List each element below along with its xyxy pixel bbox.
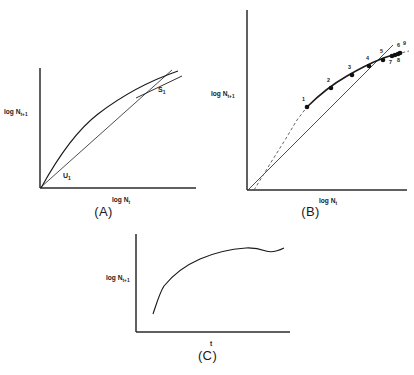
point-label: 4 (366, 55, 369, 61)
panel-c: log Nt+1 t (C) (104, 228, 311, 375)
replacement-line (248, 45, 393, 190)
data-point (381, 58, 386, 63)
extrapolation-dashed (254, 107, 307, 190)
time-series-curve (153, 248, 284, 314)
label-unstable-equilibrium: U1 (63, 172, 71, 181)
panel-a-plot: U1 S1 log Nt+1 log Nt (0, 0, 207, 205)
data-point (367, 64, 372, 69)
panel-b-caption: (B) (207, 204, 414, 219)
panel-c-caption: (C) (104, 348, 311, 363)
panel-b-ylabel: log Nt+1 (211, 90, 235, 99)
label-stable-equilibrium: S1 (158, 86, 166, 95)
point-label: 9 (403, 40, 406, 46)
data-point (329, 86, 334, 91)
panel-c-ylabel: log Nt+1 (106, 274, 130, 283)
data-point (398, 51, 403, 56)
data-point (350, 73, 355, 78)
point-label: 7 (389, 59, 392, 65)
panel-c-plot: log Nt+1 t (104, 228, 311, 350)
panel-c-xlabel: t (210, 340, 213, 347)
panel-a-caption: (A) (0, 204, 207, 219)
panel-b-plot: 1 2 3 4 5 6 7 8 9 log Nt+1 log Nt (207, 0, 414, 205)
data-point (305, 105, 310, 110)
point-label: 6 (397, 42, 400, 48)
point-label: 1 (302, 96, 305, 102)
point-label: 5 (380, 48, 383, 54)
point-label: 2 (327, 77, 330, 83)
point-label: 3 (348, 64, 351, 70)
panel-a-ylabel: log Nt+1 (4, 108, 28, 117)
panel-a: U1 S1 log Nt+1 log Nt (A) (0, 0, 207, 230)
panel-b: 1 2 3 4 5 6 7 8 9 log Nt+1 log Nt (B) (207, 0, 414, 230)
point-label: 8 (397, 57, 400, 63)
figure-container: U1 S1 log Nt+1 log Nt (A) (0, 0, 414, 375)
replacement-line (40, 70, 172, 188)
